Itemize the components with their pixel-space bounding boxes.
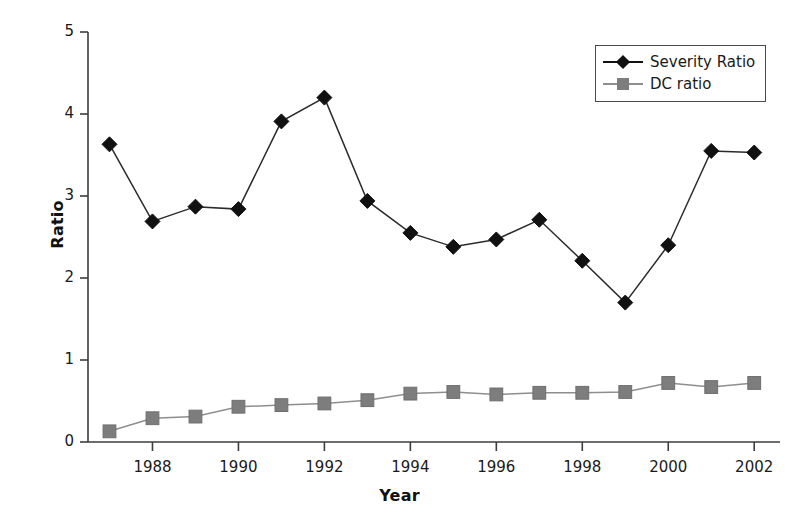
data-point-marker[interactable] (231, 202, 246, 217)
legend-label-severity-ratio: Severity Ratio (650, 53, 755, 71)
legend-item-severity-ratio[interactable]: Severity Ratio (603, 51, 755, 73)
x-tick-label: 1992 (294, 458, 354, 476)
legend-sample-dc-ratio (603, 75, 643, 93)
y-axis-title: Ratio (48, 165, 67, 285)
series-layer (102, 90, 762, 438)
square-marker-icon (617, 78, 629, 90)
data-point-marker[interactable] (317, 90, 332, 105)
data-point-marker[interactable] (103, 425, 116, 438)
data-point-marker[interactable] (533, 386, 546, 399)
data-point-marker[interactable] (661, 238, 676, 253)
data-point-marker[interactable] (102, 137, 117, 152)
data-point-marker[interactable] (146, 412, 159, 425)
data-point-marker[interactable] (275, 399, 288, 412)
data-point-marker[interactable] (447, 386, 460, 399)
data-point-marker[interactable] (705, 381, 718, 394)
data-point-marker[interactable] (360, 193, 375, 208)
legend-item-dc-ratio[interactable]: DC ratio (603, 73, 755, 95)
series-line-dc-ratio (109, 383, 754, 431)
x-tick-label: 1996 (466, 458, 526, 476)
data-point-marker[interactable] (318, 397, 331, 410)
data-point-marker[interactable] (189, 410, 202, 423)
y-tick-label: 5 (34, 22, 74, 40)
data-point-marker[interactable] (576, 386, 589, 399)
x-tick-label: 1998 (552, 458, 612, 476)
chart-figure: 012345 19881990199219941996199820002002 … (0, 0, 799, 531)
x-axis-title: Year (0, 486, 799, 505)
data-point-marker[interactable] (662, 377, 675, 390)
data-point-marker[interactable] (145, 214, 160, 229)
data-point-marker[interactable] (404, 387, 417, 400)
data-point-marker[interactable] (489, 232, 504, 247)
x-tick-label: 1988 (122, 458, 182, 476)
data-point-marker[interactable] (619, 386, 632, 399)
data-point-marker[interactable] (232, 400, 245, 413)
legend-sample-severity-ratio (603, 53, 643, 71)
y-tick-label: 0 (34, 432, 74, 450)
y-tick-label: 4 (34, 104, 74, 122)
diamond-marker-icon (616, 55, 630, 69)
data-point-marker[interactable] (361, 394, 374, 407)
x-tick-label: 1990 (208, 458, 268, 476)
data-point-marker[interactable] (446, 239, 461, 254)
x-tick-label: 2000 (638, 458, 698, 476)
x-tick-label: 2002 (724, 458, 784, 476)
data-point-marker[interactable] (188, 199, 203, 214)
data-point-marker[interactable] (490, 388, 503, 401)
x-tick-label: 1994 (380, 458, 440, 476)
legend-label-dc-ratio: DC ratio (650, 75, 711, 93)
data-point-marker[interactable] (747, 145, 762, 160)
data-point-marker[interactable] (748, 377, 761, 390)
data-point-marker[interactable] (403, 225, 418, 240)
chart-legend: Severity Ratio DC ratio (595, 45, 766, 102)
y-tick-label: 1 (34, 350, 74, 368)
data-point-marker[interactable] (274, 114, 289, 129)
data-point-marker[interactable] (704, 143, 719, 158)
series-line-severity-ratio (109, 98, 754, 303)
